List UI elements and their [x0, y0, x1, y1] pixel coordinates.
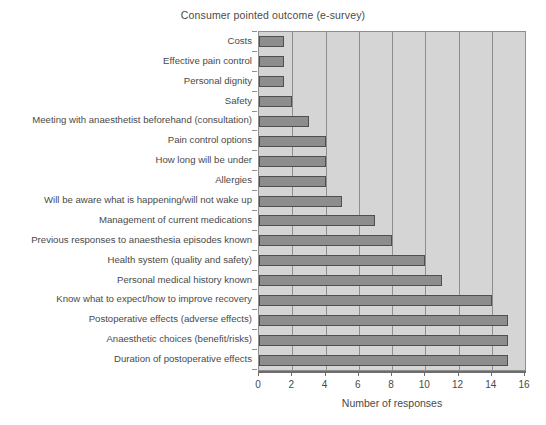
x-axis-tick [258, 371, 259, 376]
x-axis-line [258, 371, 526, 373]
y-axis-tick [252, 31, 257, 32]
y-axis-tick [252, 230, 257, 231]
y-axis-tick-label: Personal medical history known [0, 274, 252, 285]
y-axis-tick [252, 369, 257, 370]
y-axis-tick-label: Personal dignity [0, 75, 252, 86]
bar [259, 36, 284, 47]
y-axis-tick [252, 130, 257, 131]
y-axis-tick-label: Management of current medications [0, 214, 252, 225]
bar [259, 176, 326, 187]
y-axis-tick [252, 309, 257, 310]
y-axis-tick [252, 150, 257, 151]
x-axis-tick-label: 2 [276, 379, 306, 390]
x-axis-title: Number of responses [258, 397, 526, 409]
bar [259, 235, 392, 246]
x-axis-tick-label: 6 [343, 379, 373, 390]
x-axis-tick-label: 16 [509, 379, 539, 390]
y-axis-tick-label: How long will be under [0, 154, 252, 165]
y-axis-tick [252, 190, 257, 191]
y-axis-tick [252, 270, 257, 271]
bar [259, 215, 375, 226]
y-axis-labels: CostsEffective pain controlPersonal dign… [0, 31, 252, 371]
y-axis-tick-label: Safety [0, 95, 252, 106]
y-axis-tick-label: Allergies [0, 174, 252, 185]
chart-title: Consumer pointed outcome (e-survey) [0, 9, 546, 21]
y-axis-tick [252, 210, 257, 211]
y-axis-tick [252, 349, 257, 350]
bar [259, 156, 326, 167]
bar [259, 335, 508, 346]
y-axis-tick-label: Previous responses to anaesthesia episod… [0, 234, 252, 245]
plot-area [258, 31, 526, 371]
x-axis-tick-label: 0 [243, 379, 273, 390]
y-axis-tick-label: Postoperative effects (adverse effects) [0, 313, 252, 324]
y-axis-tick-label: Anaesthetic choices (benefit/risks) [0, 333, 252, 344]
x-axis-tick [424, 371, 425, 376]
x-axis-tick [358, 371, 359, 376]
bar [259, 315, 508, 326]
y-axis-tick-label: Know what to expect/how to improve recov… [0, 293, 252, 304]
bars-container [259, 32, 525, 370]
x-axis-tick-label: 14 [476, 379, 506, 390]
bar [259, 56, 284, 67]
y-axis-tick [252, 111, 257, 112]
bar [259, 136, 326, 147]
y-axis-tick-label: Meeting with anaesthetist beforehand (co… [0, 114, 252, 125]
x-axis-tick [391, 371, 392, 376]
y-axis-tick [252, 71, 257, 72]
y-axis-tick-label: Pain control options [0, 134, 252, 145]
x-axis-tick [458, 371, 459, 376]
x-axis-tick-label: 8 [376, 379, 406, 390]
y-axis-tick [252, 51, 257, 52]
x-axis-tick [491, 371, 492, 376]
x-axis-tick-label: 4 [310, 379, 340, 390]
bar [259, 76, 284, 87]
y-axis-tick-label: Will be aware what is happening/will not… [0, 194, 252, 205]
x-axis-tick-label: 10 [409, 379, 439, 390]
bar [259, 355, 508, 366]
y-axis-tick [252, 329, 257, 330]
bar [259, 116, 309, 127]
bar [259, 255, 425, 266]
y-axis-tick [252, 170, 257, 171]
y-axis-tick-label: Health system (quality and safety) [0, 254, 252, 265]
y-axis-tick [252, 289, 257, 290]
bar [259, 196, 342, 207]
x-axis-tick [291, 371, 292, 376]
bar [259, 275, 442, 286]
chart-figure: Consumer pointed outcome (e-survey) Cost… [0, 0, 546, 425]
bar [259, 96, 292, 107]
x-axis-tick [524, 371, 525, 376]
x-axis-tick-label: 12 [443, 379, 473, 390]
y-axis-tick-label: Duration of postoperative effects [0, 353, 252, 364]
y-axis-tick [252, 91, 257, 92]
y-axis-tick-label: Effective pain control [0, 55, 252, 66]
bar [259, 295, 492, 306]
y-axis-tick-label: Costs [0, 35, 252, 46]
x-axis-tick [325, 371, 326, 376]
y-axis-tick [252, 250, 257, 251]
